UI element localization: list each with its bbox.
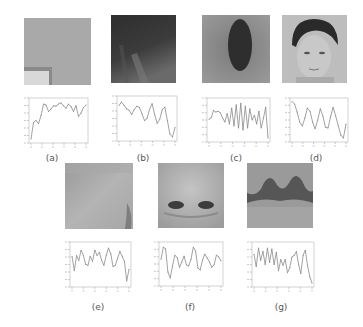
data-point [58, 104, 59, 105]
data-point [247, 128, 248, 129]
data-point [177, 257, 178, 258]
data-point [303, 255, 304, 256]
data-point [328, 128, 329, 129]
data-point [258, 111, 259, 112]
plot-f [152, 240, 225, 292]
data-point [268, 138, 269, 139]
data-point [209, 119, 210, 120]
data-point [265, 107, 266, 108]
data-point [175, 127, 176, 128]
data-point [211, 267, 212, 268]
data-point [204, 254, 205, 255]
data-point [46, 104, 47, 105]
data-point [338, 126, 339, 127]
data-point [124, 105, 125, 106]
data-point [216, 255, 217, 256]
data-point [51, 109, 52, 110]
data-point [163, 247, 164, 248]
data-point [243, 130, 244, 131]
data-point [287, 272, 288, 273]
data-point [262, 251, 263, 252]
data-point [115, 265, 116, 266]
data-point [218, 256, 219, 257]
label-c: (c) [230, 153, 242, 163]
data-point [269, 262, 270, 263]
data-point [43, 104, 44, 105]
patch-a-image [24, 18, 91, 85]
data-point [227, 113, 228, 114]
patch-g-image [247, 163, 313, 228]
data-point [121, 102, 122, 103]
data-point [113, 266, 114, 267]
patch-f [158, 163, 224, 228]
data-point [36, 120, 37, 121]
data-point [340, 135, 341, 136]
plot-frame [159, 242, 223, 286]
data-point [170, 278, 171, 279]
data-point [66, 108, 67, 109]
data-point [322, 116, 323, 117]
label-f: (f) [185, 302, 195, 312]
data-point [94, 250, 95, 251]
data-point [68, 104, 69, 105]
data-point [63, 105, 64, 106]
data-point [333, 107, 334, 108]
data-point [267, 248, 268, 249]
data-point [179, 267, 180, 268]
data-point [86, 104, 87, 105]
data-point [48, 111, 49, 112]
data-point [304, 118, 305, 119]
data-point [294, 104, 295, 105]
data-point [346, 124, 347, 125]
data-point [280, 259, 281, 260]
data-point [167, 272, 168, 273]
data-point [106, 255, 107, 256]
plot-frame [70, 242, 131, 287]
data-point [274, 264, 275, 265]
data-point [191, 259, 192, 260]
data-point [141, 113, 142, 114]
data-point [61, 102, 62, 103]
patch-c-image [202, 15, 270, 83]
data-point [126, 280, 127, 281]
data-point [312, 282, 313, 283]
data-point [285, 259, 286, 260]
data-point [117, 258, 118, 259]
data-point [309, 276, 310, 277]
data-point [165, 248, 166, 249]
patch-e-image [65, 163, 133, 229]
data-point [307, 108, 308, 109]
data-point [90, 256, 91, 257]
data-point [139, 107, 140, 108]
data-point [99, 252, 100, 253]
data-point [71, 106, 72, 107]
data-point [291, 257, 292, 258]
data-point [56, 106, 57, 107]
data-point [81, 113, 82, 114]
data-point [147, 118, 148, 119]
data-point [305, 250, 306, 251]
data-point [197, 268, 198, 269]
data-point [312, 122, 313, 123]
data-point [119, 251, 120, 252]
patch-b-image [111, 15, 176, 83]
data-point [162, 109, 163, 110]
data-point [299, 122, 300, 123]
data-point [129, 269, 130, 270]
data-point [97, 255, 98, 256]
data-point [83, 107, 84, 108]
data-point [164, 107, 165, 108]
patch-a [24, 18, 91, 85]
data-point [211, 117, 212, 118]
data-point [233, 126, 234, 127]
data-point [152, 103, 153, 104]
patch-e [65, 163, 133, 229]
data-point [320, 108, 321, 109]
data-point [76, 105, 77, 106]
data-point [317, 120, 318, 121]
plot-g [245, 240, 316, 293]
data-point [33, 122, 34, 123]
data-point [169, 134, 170, 135]
data-point [215, 112, 216, 113]
data-point [174, 255, 175, 256]
